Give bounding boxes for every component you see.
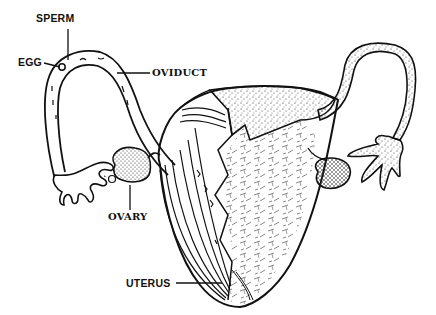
anatomy-drawing [0,0,436,315]
label-egg: EGG [18,56,42,68]
label-oviduct: OVIDUCT [152,67,207,78]
right-ovary [308,148,350,188]
left-fimbriae [53,162,113,205]
label-ovary: OVARY [108,211,147,222]
reproductive-system-diagram: SPERM EGG OVIDUCT OVARY UTERUS [0,0,436,315]
uterus-body [159,86,338,307]
label-uterus: UTERUS [126,277,170,289]
label-sperm: SPERM [36,12,74,24]
right-fimbriae [348,136,403,190]
